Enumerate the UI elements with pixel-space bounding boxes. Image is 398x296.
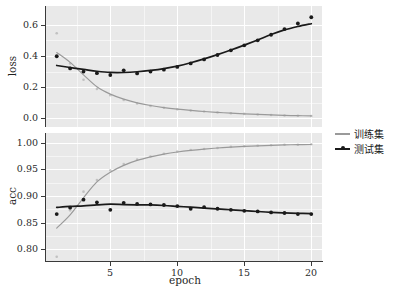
gridline-x-major bbox=[311, 133, 312, 261]
legend-line-dot-icon-test bbox=[334, 142, 351, 155]
gridline-y-major bbox=[46, 56, 322, 57]
legend-item-test[interactable]: 测试集 bbox=[334, 141, 396, 156]
gridline-x-minor bbox=[211, 6, 212, 127]
tick-label-y: 1.00 bbox=[17, 138, 38, 148]
gridline-x-minor bbox=[278, 133, 279, 261]
tick-x bbox=[110, 262, 111, 266]
gridline-x-major bbox=[311, 6, 312, 127]
gridline-y-minor bbox=[46, 236, 322, 237]
gridline-y-minor bbox=[46, 183, 322, 184]
axis-y-loss bbox=[45, 6, 46, 127]
chart-figure: 0.00.20.40.60.800.850.900.951.005101520 … bbox=[0, 0, 398, 296]
gridline-y-major bbox=[46, 118, 322, 119]
axis-title-loss: loss bbox=[6, 36, 18, 96]
tick-label-y: 0.80 bbox=[17, 244, 38, 254]
axis-title-epoch: epoch bbox=[145, 274, 225, 286]
gridline-y-minor bbox=[46, 156, 322, 157]
tick-label-x: 5 bbox=[90, 268, 130, 278]
tick-label-y: 0.0 bbox=[23, 113, 38, 123]
gridline-x-major bbox=[177, 6, 178, 127]
gridline-y-major bbox=[46, 25, 322, 26]
legend-item-train[interactable]: 训练集 bbox=[334, 126, 396, 141]
gridline-x-major bbox=[244, 133, 245, 261]
gridline-x-major bbox=[110, 133, 111, 261]
gridline-x-minor bbox=[278, 6, 279, 127]
gridline-x-minor bbox=[77, 133, 78, 261]
gridline-y-major bbox=[46, 87, 322, 88]
gridline-x-minor bbox=[77, 6, 78, 127]
legend-label-train: 训练集 bbox=[354, 126, 384, 141]
gridline-y-major bbox=[46, 169, 322, 170]
panel-acc bbox=[46, 133, 322, 261]
tick-label-x: 15 bbox=[224, 268, 264, 278]
legend-line-icon-train bbox=[334, 127, 351, 140]
gridline-y-major bbox=[46, 249, 322, 250]
tick-x bbox=[177, 262, 178, 266]
tick-label-y: 0.90 bbox=[17, 191, 38, 201]
tick-label-y: 0.6 bbox=[23, 20, 38, 30]
tick-x bbox=[244, 262, 245, 266]
axis-title-acc: acc bbox=[6, 166, 18, 226]
gridline-x-minor bbox=[144, 6, 145, 127]
gridline-x-major bbox=[110, 6, 111, 127]
axis-y-acc bbox=[45, 133, 46, 261]
gridline-x-major bbox=[244, 6, 245, 127]
tick-label-y: 0.85 bbox=[17, 218, 38, 228]
gridline-y-minor bbox=[46, 209, 322, 210]
gridline-x-minor bbox=[211, 133, 212, 261]
gridline-x-major bbox=[177, 133, 178, 261]
gridline-y-minor bbox=[46, 103, 322, 104]
gridline-y-minor bbox=[46, 40, 322, 41]
gridline-x-minor bbox=[144, 133, 145, 261]
gridline-y-minor bbox=[46, 72, 322, 73]
tick-label-y: 0.2 bbox=[23, 82, 38, 92]
legend-label-test: 测试集 bbox=[354, 141, 384, 156]
tick-label-y: 0.95 bbox=[17, 164, 38, 174]
axis-x bbox=[45, 261, 323, 262]
gridline-y-major bbox=[46, 223, 322, 224]
gridline-y-major bbox=[46, 143, 322, 144]
legend: 训练集 测试集 bbox=[334, 126, 396, 156]
gridline-y-major bbox=[46, 196, 322, 197]
tick-label-x: 20 bbox=[291, 268, 331, 278]
tick-label-y: 0.4 bbox=[23, 51, 38, 61]
tick-x bbox=[311, 262, 312, 266]
